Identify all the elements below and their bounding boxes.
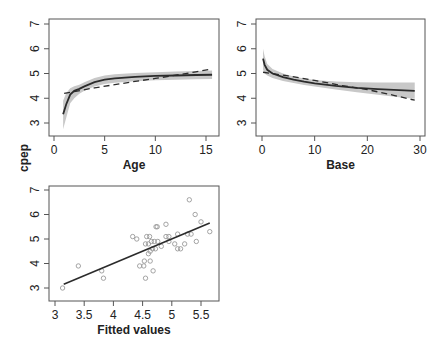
x-axis-title: Base — [326, 158, 355, 172]
data-point — [60, 286, 64, 290]
data-point — [193, 212, 197, 216]
x-tick-label: 10 — [308, 143, 322, 157]
y-tick-label: 6 — [235, 45, 249, 52]
base-panel: 345670102030Base — [235, 19, 427, 172]
x-tick-label: 10 — [149, 143, 163, 157]
y-tick-label: 6 — [28, 211, 42, 218]
x-tick-label: 0 — [51, 143, 58, 157]
x-tick-label: 3 — [52, 308, 59, 322]
data-point — [76, 264, 80, 268]
age-panel: 34567051015Age — [28, 19, 219, 172]
y-tick-label: 5 — [235, 70, 249, 77]
data-point — [147, 234, 151, 238]
x-axis-title: Age — [123, 158, 146, 172]
data-point — [208, 229, 212, 233]
data-point — [182, 242, 186, 246]
y-tick-label: 3 — [235, 119, 249, 126]
shared-y-axis-label: cpep — [17, 144, 31, 172]
data-point — [146, 242, 150, 246]
x-tick-label: 15 — [199, 143, 213, 157]
x-tick-label: 30 — [413, 143, 427, 157]
data-point — [151, 269, 155, 273]
y-tick-label: 3 — [28, 119, 42, 126]
data-point — [173, 242, 177, 246]
y-tick-label: 4 — [235, 95, 249, 102]
data-point — [148, 259, 152, 263]
data-point — [135, 237, 139, 241]
x-tick-label: 5 — [168, 308, 175, 322]
data-point — [194, 239, 198, 243]
data-point — [164, 222, 168, 226]
y-tick-label: 3 — [28, 284, 42, 291]
confidence-band — [63, 71, 212, 130]
y-tick-label: 5 — [28, 70, 42, 77]
x-tick-label: 5.5 — [193, 308, 210, 322]
x-tick-label: 20 — [361, 143, 375, 157]
fit-line — [64, 223, 210, 284]
confidence-band — [263, 49, 415, 99]
data-point — [178, 247, 182, 251]
x-tick-label: 3.5 — [76, 308, 93, 322]
y-tick-label: 4 — [28, 95, 42, 102]
data-point — [143, 276, 147, 280]
fitted-values-panel: 3456733.544.555.5Fitted values — [28, 186, 219, 337]
data-point — [187, 198, 191, 202]
x-axis-title: Fitted values — [97, 323, 171, 337]
y-tick-label: 6 — [28, 45, 42, 52]
y-tick-label: 7 — [28, 20, 42, 27]
data-point — [199, 220, 203, 224]
y-tick-label: 4 — [28, 260, 42, 267]
x-tick-label: 5 — [101, 143, 108, 157]
y-tick-label: 7 — [235, 20, 249, 27]
figure: cpep 34567051015Age 345670102030Base 345… — [0, 0, 444, 345]
data-point — [130, 234, 134, 238]
x-tick-label: 4.5 — [134, 308, 151, 322]
x-tick-label: 4 — [110, 308, 117, 322]
y-tick-label: 7 — [28, 186, 42, 193]
data-point — [142, 259, 146, 263]
x-tick-label: 0 — [259, 143, 266, 157]
plot-frame — [49, 186, 219, 301]
data-point — [101, 276, 105, 280]
y-tick-label: 5 — [28, 235, 42, 242]
data-point — [167, 234, 171, 238]
